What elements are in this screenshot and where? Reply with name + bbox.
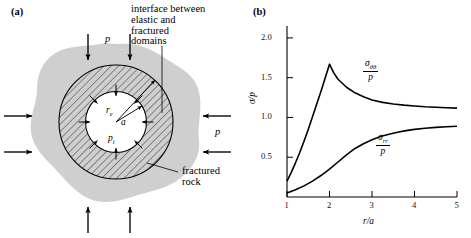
x-tick-label: 3 bbox=[370, 200, 374, 210]
figure-container: (a) bbox=[0, 0, 471, 238]
x-axis-ticks bbox=[287, 191, 457, 197]
x-tick-label: 2 bbox=[327, 200, 331, 210]
x-axis-title: r/a bbox=[363, 216, 374, 226]
y-axis-ticks bbox=[287, 38, 293, 157]
outer-radius-label: re bbox=[106, 105, 113, 117]
curve-sigma-rr bbox=[287, 126, 457, 193]
curve-label-hoop-denominator: p bbox=[363, 73, 378, 83]
x-tick-label: 4 bbox=[412, 200, 416, 210]
y-tick-label: 1.0 bbox=[261, 111, 272, 121]
curve-label-hoop: σθθ p bbox=[363, 59, 378, 82]
far-field-arrows-left bbox=[4, 116, 32, 152]
curve-label-radial: σrr p bbox=[376, 133, 390, 156]
panel-a: (a) bbox=[0, 0, 236, 238]
annotation-interface-text: interface between elastic and fractured … bbox=[131, 4, 231, 47]
y-tick-label: 2.0 bbox=[261, 32, 272, 42]
far-field-pressure-label-top: p bbox=[105, 33, 110, 44]
cavity-pressure-label: pi bbox=[108, 133, 115, 145]
y-tick-label: 0.5 bbox=[261, 151, 272, 161]
y-axis-title: σ/p bbox=[247, 92, 257, 104]
panel-b: (b) 0.51.01.52.0 12345 σ/p r/a σθθ p σrr… bbox=[235, 0, 471, 238]
curve-label-hoop-numerator: σθθ bbox=[363, 59, 378, 71]
curve-label-radial-denominator: p bbox=[376, 147, 390, 157]
annotation-fractured-rock-text: fractured rock bbox=[182, 166, 234, 188]
far-field-arrows-bottom bbox=[88, 207, 130, 233]
inner-radius-label: a bbox=[121, 117, 126, 127]
far-field-pressure-label-right: p bbox=[215, 126, 220, 137]
x-tick-label: 1 bbox=[285, 200, 289, 210]
y-tick-label: 1.5 bbox=[261, 72, 272, 82]
curve-label-radial-numerator: σrr bbox=[376, 133, 390, 145]
x-tick-label: 5 bbox=[455, 200, 459, 210]
